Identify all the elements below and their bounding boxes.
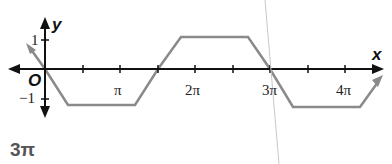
x-tick-label-4pi: 4π <box>336 82 352 98</box>
x-tick-label-3pi: 3π <box>262 82 278 98</box>
x-tick-label-pi: π <box>114 82 122 98</box>
y-axis-down-arrow-icon <box>40 106 50 118</box>
graph: y x O 1 −1 π 2π 3π 4π <box>0 0 392 164</box>
origin-label: O <box>28 71 41 90</box>
x-tick-label-2pi: 2π <box>185 82 201 98</box>
x-axis-right-arrow-icon <box>372 64 384 74</box>
answer-text: 3π <box>10 139 35 161</box>
y-tick-label-1: 1 <box>31 32 39 48</box>
y-axis-label: y <box>51 15 63 34</box>
x-axis-left-arrow-icon <box>8 64 20 74</box>
trapezoid-wave-curve <box>30 37 378 107</box>
curve-right-arrow-icon <box>372 75 383 87</box>
x-axis-label: x <box>371 45 383 64</box>
y-tick-label-neg1: −1 <box>19 90 35 106</box>
y-axis-up-arrow-icon <box>40 17 50 29</box>
